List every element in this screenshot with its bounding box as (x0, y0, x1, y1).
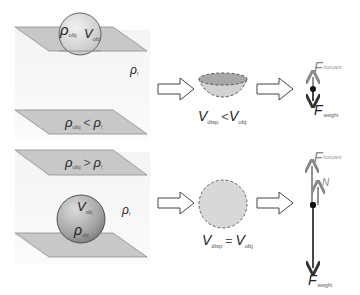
displaced-volume-hemisphere (199, 73, 247, 97)
displaced-volume-sphere (199, 180, 247, 228)
center-of-mass-dot (310, 86, 316, 92)
bottom-force-diagram: Fbuoyant N Fweight (308, 149, 342, 288)
top-force-diagram: Fbuoyant Fweight (310, 59, 342, 118)
hollow-arrow-right-icon (158, 78, 194, 100)
top-panel: ρobj Vobj ρf ρobj<ρf Vdisp<Vobj Fbuoyant… (15, 13, 342, 140)
weight-force-label: Fweight (314, 102, 339, 118)
weight-force-label: Fweight (308, 272, 333, 288)
displaced-volume-label: Vdisp<Vobj (198, 108, 246, 125)
center-of-mass-dot (310, 202, 316, 208)
hollow-arrow-right-icon (257, 192, 293, 214)
normal-force-label: N (322, 177, 330, 188)
displaced-volume-label: Vdisp=Vobj (202, 232, 253, 249)
hollow-arrow-right-icon (158, 192, 194, 214)
bottom-panel: ρobj>ρf ρf Vobj ρobj Vdisp=Vobj Fbuoyant… (15, 149, 342, 288)
condition-label: ρobj<ρf (64, 115, 103, 130)
buoyant-force-label: Fbuoyant (314, 149, 342, 165)
hollow-arrow-right-icon (257, 78, 293, 100)
condition-label: ρobj>ρf (64, 155, 103, 170)
buoyant-force-label: Fbuoyant (314, 59, 342, 75)
buoyancy-diagram: ρobj Vobj ρf ρobj<ρf Vdisp<Vobj Fbuoyant… (0, 0, 360, 295)
